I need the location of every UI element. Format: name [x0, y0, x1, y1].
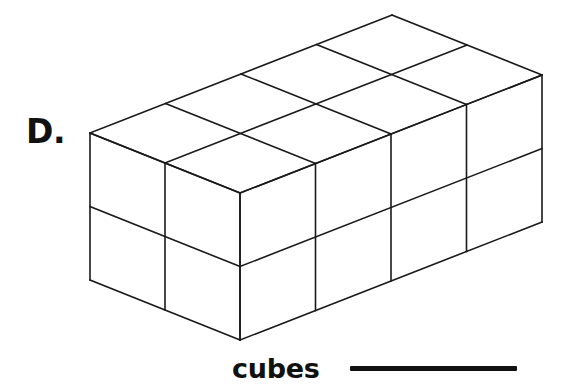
answer-unit-label: cubes: [232, 355, 319, 382]
cube-stack-figure: [0, 0, 577, 387]
worksheet-canvas: D. cubes: [0, 0, 577, 387]
answer-row: cubes: [232, 350, 542, 386]
answer-blank-line[interactable]: [350, 366, 517, 371]
